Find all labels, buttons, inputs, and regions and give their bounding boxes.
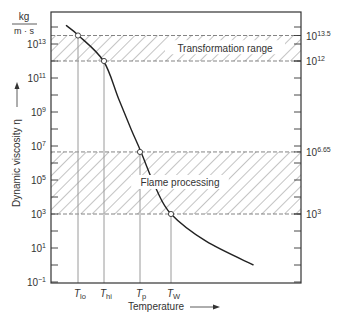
right-tick-label: 1012: [306, 55, 325, 67]
left-tick-label: 107: [31, 140, 46, 152]
x-marker-label-T_p: Tp: [136, 288, 146, 301]
left-tick-label: 109: [31, 106, 46, 118]
left-tick-label: 1011: [28, 72, 46, 84]
marker-circle-T_lo: [75, 33, 80, 38]
right-tick-label: 106.65: [306, 146, 331, 158]
right-tick-label: 1013.5: [306, 30, 331, 42]
left-tick-label: 10−1: [27, 276, 46, 288]
x-marker-label-T_hi: Thi: [100, 288, 112, 301]
left-tick-label: 105: [31, 174, 46, 186]
marker-circle-T_p: [137, 149, 142, 154]
marker-circle-T_W: [168, 211, 173, 216]
viscosity-chart: 1013101110910710510310110−1 1013.5101210…: [0, 0, 342, 322]
y-axis-label: Dynamic viscosity η: [11, 119, 22, 207]
marker-circle-T_hi: [101, 58, 106, 63]
left-tick-label: 101: [31, 242, 46, 254]
y-unit-numerator: kg: [19, 11, 30, 22]
band-label: Flame processing: [141, 177, 220, 188]
band-label: Transformation range: [177, 43, 273, 54]
x-axis-arrowhead-icon: [213, 305, 220, 310]
left-tick-label: 1013: [27, 38, 46, 50]
left-tick-label: 103: [31, 208, 46, 220]
x-marker-labels: TloThiTpTW: [74, 288, 181, 301]
right-tick-label: 103: [306, 208, 321, 220]
x-marker-label-T_lo: Tlo: [74, 288, 86, 301]
x-axis-label: Temperature: [128, 301, 185, 312]
x-marker-label-T_W: TW: [167, 288, 181, 301]
y-axis-arrowhead-icon: [15, 82, 20, 89]
y-unit-denominator: m · s: [14, 26, 34, 36]
